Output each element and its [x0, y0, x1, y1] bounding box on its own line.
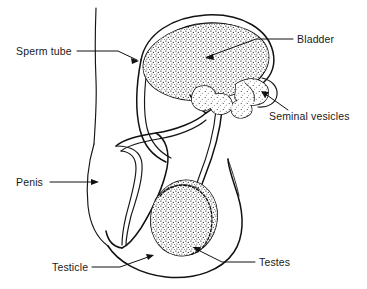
male-reproductive-system-illustration: Sperm tube Bladder Seminal vesicles Peni…	[0, 0, 367, 289]
testis-organ	[143, 173, 225, 263]
label-text-sperm-tube: Sperm tube	[16, 45, 72, 57]
anatomy-diagram: Sperm tube Bladder Seminal vesicles Peni…	[0, 0, 367, 289]
leader-line-testicle	[92, 256, 151, 267]
body-wall-outline	[87, 8, 108, 246]
label-text-bladder: Bladder	[297, 33, 335, 45]
label-text-seminal-vesicles: Seminal vesicles	[269, 110, 350, 122]
label-text-penis: Penis	[16, 176, 43, 188]
label-text-testes: Testes	[259, 256, 290, 268]
label-sperm-tube: Sperm tube	[16, 45, 139, 64]
arrowhead-penis	[91, 179, 99, 185]
leader-line-sperm-tube	[77, 51, 137, 60]
label-penis: Penis	[16, 176, 99, 188]
label-text-testicle: Testicle	[52, 261, 88, 273]
